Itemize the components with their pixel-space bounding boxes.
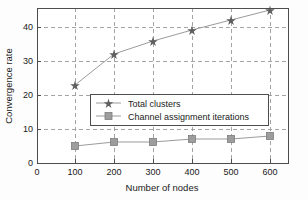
square-marker-100 — [72, 143, 79, 150]
convergence-rate-line-chart: 0 10 20 30 40 0 100 200 300 400 500 600 … — [0, 0, 308, 200]
ytick-label-0: 0 — [28, 158, 33, 168]
square-marker-300 — [150, 139, 157, 146]
ytick-label-20: 20 — [23, 90, 33, 100]
square-marker-200 — [111, 139, 118, 146]
chart-figure: 0 10 20 30 40 0 100 200 300 400 500 600 … — [0, 0, 308, 200]
ytick-label-10: 10 — [23, 124, 33, 134]
y-axis-tick-labels: 0 10 20 30 40 — [23, 22, 33, 168]
xtick-label-200: 200 — [106, 167, 121, 177]
square-marker-500 — [228, 136, 235, 143]
xtick-label-400: 400 — [184, 167, 199, 177]
xtick-label-100: 100 — [67, 167, 82, 177]
xtick-label-0: 0 — [34, 167, 39, 177]
square-marker-600 — [267, 133, 274, 140]
ytick-label-30: 30 — [23, 56, 33, 66]
square-marker-icon — [105, 113, 112, 120]
xtick-label-600: 600 — [262, 167, 277, 177]
xtick-label-500: 500 — [223, 167, 238, 177]
square-marker-400 — [189, 136, 196, 143]
legend-label-total-clusters: Total clusters — [128, 99, 181, 109]
x-axis-tick-labels: 0 100 200 300 400 500 600 — [34, 167, 277, 177]
chart-legend: Total clusters Channel assignment iterat… — [90, 94, 268, 125]
xtick-label-300: 300 — [145, 167, 160, 177]
y-axis-title: Convergence rate — [3, 48, 14, 124]
x-axis-title: Number of nodes — [126, 182, 199, 193]
legend-label-channel-assignment-iterations: Channel assignment iterations — [128, 112, 250, 122]
ytick-label-40: 40 — [23, 22, 33, 32]
